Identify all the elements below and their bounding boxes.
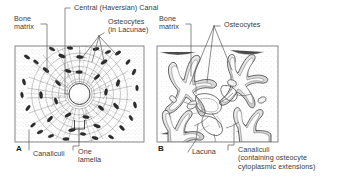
panel-letter-a: A [16,144,22,153]
central-haversian-canal-shape [69,84,90,105]
label-b-bone-matrix: Bone matrix [159,15,179,32]
panel-b-artwork [157,46,278,144]
bone-histology-figure: Bone matrix Central (Haversian) Canal Os… [0,0,345,180]
label-b-osteocytes: Osteocytes [224,21,260,29]
panel-a-artwork [15,46,144,142]
leader-a-osteocytes-stem [99,33,104,36]
label-b-canaliculi: Canaliculi (containing osteocyte cytopla… [238,146,315,171]
panel-letter-b: B [158,144,164,153]
label-b-lacuna: Lacuna [192,148,216,156]
label-a-one-lamella: One lamella [78,148,101,165]
label-a-osteocytes: Osteocytes (in Lacunae) [108,18,149,35]
label-a-canaliculi: Canaliculi [33,150,65,158]
label-a-bone-matrix: Bone matrix [14,15,34,32]
label-a-central-canal: Central (Haversian) Canal [74,4,158,12]
